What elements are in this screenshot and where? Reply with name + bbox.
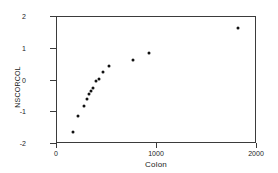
y-axis-title: NSCORCOL <box>14 41 22 133</box>
x-axis-title: Colon <box>56 160 256 169</box>
x-tick-label: 0 <box>54 150 58 157</box>
x-tick-label: 1000 <box>148 150 164 157</box>
x-tick-mark <box>256 143 257 148</box>
y-tick-label: 0 <box>22 76 26 83</box>
plot-frame <box>56 16 256 143</box>
y-tick-label: 1 <box>22 44 26 51</box>
x-tick-mark <box>56 143 57 148</box>
y-tick-label: 2 <box>22 13 26 20</box>
x-tick-label: 2000 <box>248 150 264 157</box>
y-tick-label: -1 <box>20 108 26 115</box>
x-tick-mark <box>156 143 157 148</box>
scatter-plot-figure: NSCORCOL 210-1-2 010002000 Colon <box>0 0 278 173</box>
